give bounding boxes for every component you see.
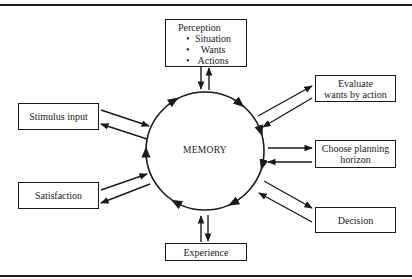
perception-box: Perception Situation Wants Actions <box>165 19 247 67</box>
perception-bullet-actions: Actions <box>186 55 231 66</box>
stimulus-input-label: Stimulus input <box>29 111 88 122</box>
evaluate-box: Evaluate wants by action <box>315 75 396 102</box>
arrow-memory-to-decision <box>264 181 312 208</box>
perception-bullet-wants: Wants <box>186 44 231 55</box>
decision-box: Decision <box>315 207 396 233</box>
evaluate-label-line1: Evaluate <box>338 78 373 89</box>
perception-bullet-situation: Situation <box>186 33 231 44</box>
arrow-stimulus-to-memory <box>101 110 149 126</box>
memory-label: MEMORY <box>175 145 235 155</box>
choose-planning-horizon-box: Choose planning horizon <box>315 140 396 168</box>
satisfaction-box: Satisfaction <box>18 182 99 209</box>
arrow-memory-to-evaluate <box>258 86 312 116</box>
decision-label: Decision <box>338 215 374 226</box>
satisfaction-label: Satisfaction <box>35 190 82 201</box>
arrow-decision-to-memory <box>259 193 312 222</box>
perception-bullet-list: Situation Wants Actions <box>178 33 231 66</box>
experience-label: Experience <box>184 247 229 258</box>
choose-planning-horizon-line2: horizon <box>340 154 371 165</box>
experience-box: Experience <box>165 243 247 261</box>
arrow-memory-to-stimulus <box>101 124 147 139</box>
evaluate-label-line2: wants by action <box>324 89 387 100</box>
choose-planning-horizon-line1: Choose planning <box>322 143 390 154</box>
perception-title: Perception <box>178 22 221 33</box>
stimulus-input-box: Stimulus input <box>18 103 99 130</box>
arrow-evaluate-to-memory <box>263 98 312 127</box>
